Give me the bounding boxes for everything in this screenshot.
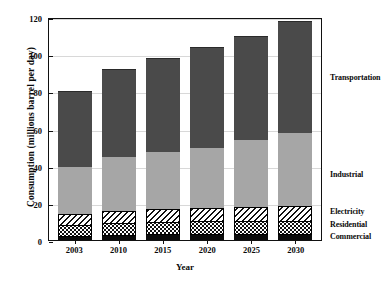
bar-segment-electricity [102,211,136,223]
y-axis-tick-label: 100 [29,51,42,61]
chart-legend: TransportationIndustrialElectricityResid… [330,0,391,287]
bars-layer [49,19,321,240]
x-axis-tick-label: 2020 [190,245,224,255]
y-axis-tick-label: 80 [34,88,43,98]
legend-entry-industrial: Industrial [330,170,363,179]
x-axis-title: Year [48,262,322,272]
bar-segment-industrial [146,151,180,210]
x-axis-tick-label: 2025 [234,245,268,255]
x-axis-tick [163,240,164,244]
x-axis-tick-label: 2030 [279,245,313,255]
y-axis-tick [49,242,53,243]
x-axis-tick [207,240,208,244]
legend-entry-residential: Residential [330,220,367,229]
y-axis-tick-label: 40 [34,163,43,173]
bar-segment-industrial [58,166,92,214]
y-axis-tick-label: 20 [34,200,43,210]
bar-2003 [58,91,92,240]
bar-segment-residential [234,221,268,234]
bar-segment-transportation [146,58,180,151]
bar-segment-residential [278,221,312,234]
plot-inner: 020406080100120 [49,19,321,240]
bar-segment-transportation [58,91,92,165]
bar-segment-transportation [102,69,136,156]
y-axis-tick-label: 120 [29,14,42,24]
stacked-bar-chart: Consumption (millions barrel per day) 02… [0,0,391,287]
bar-segment-industrial [102,156,136,211]
bar-2025 [234,36,268,240]
x-axis-tick [75,240,76,244]
legend-entry-transportation: Transportation [330,73,380,82]
bar-segment-transportation [190,47,224,147]
bar-segment-residential [146,222,180,234]
bar-segment-electricity [58,214,92,225]
bar-segment-electricity [234,207,268,221]
bar-segment-residential [190,221,224,234]
bar-segment-residential [102,223,136,235]
x-axis-tick-label: 2003 [57,245,91,255]
bar-2020 [190,47,224,240]
x-axis-tick [119,240,120,244]
bar-2010 [102,69,136,240]
bar-segment-electricity [190,208,224,221]
bar-segment-transportation [278,21,312,133]
legend-entry-electricity: Electricity [330,207,364,216]
bar-segment-transportation [234,36,268,139]
bar-segment-industrial [278,132,312,205]
x-axis-tick-labels: 200320102015202020252030 [48,245,322,255]
bar-segment-electricity [146,209,180,222]
y-axis-tick-label: 60 [34,126,43,136]
bar-segment-industrial [234,139,268,207]
bar-2030 [278,21,312,240]
x-axis-tick-label: 2015 [146,245,180,255]
legend-entry-commercial: Commercial [330,232,371,241]
y-axis-tick-label: 0 [38,237,42,247]
bar-segment-residential [58,225,92,236]
x-axis-tick [295,240,296,244]
bar-segment-industrial [190,147,224,208]
bar-segment-electricity [278,206,312,221]
bar-2015 [146,58,180,240]
x-axis-tick-label: 2010 [101,245,135,255]
x-axis-tick [251,240,252,244]
plot-area: 020406080100120 [48,18,322,241]
